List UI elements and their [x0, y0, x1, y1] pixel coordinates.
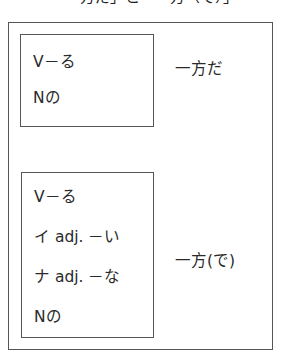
form-i-adj: イ adj. －い: [34, 224, 120, 246]
form-na-adj: ナ adj. －な: [34, 264, 120, 286]
forms-box-1: V－る Nの: [20, 34, 154, 127]
forms-box-2: V－る イ adj. －い ナ adj. －な Nの: [21, 172, 154, 338]
form-v-ru: V－る: [34, 184, 77, 206]
result-ippou-da: 一方だ: [175, 56, 223, 78]
header-title-clipped: 「一方だ」と「一方（で）」: [0, 0, 288, 6]
form-n-no: Nの: [33, 85, 61, 107]
result-ippou-de: 一方(で): [175, 248, 235, 270]
form-v-ru: V－る: [33, 49, 76, 71]
form-n-no: Nの: [34, 304, 62, 326]
